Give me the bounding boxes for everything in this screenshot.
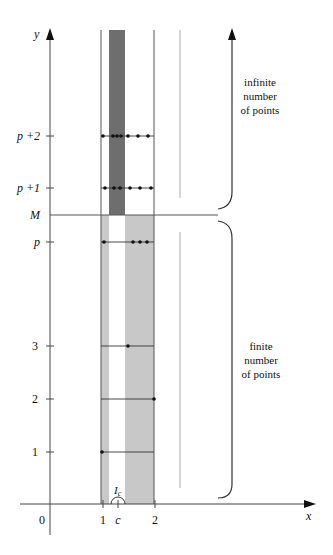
ytick-p1: p +1 (16, 181, 40, 195)
data-point (119, 134, 123, 138)
data-point (146, 134, 150, 138)
svg-text:of points: of points (242, 368, 281, 380)
upper-brace (218, 36, 232, 209)
ytick-p2: p +2 (16, 129, 40, 143)
data-point (136, 134, 140, 138)
dark-band (109, 30, 125, 215)
upper-annotation: infinite number of points (241, 76, 280, 116)
xtick-2: 2 (152, 513, 158, 527)
lower-brace (218, 221, 232, 498)
data-point (102, 240, 106, 244)
xtick-1: 1 (100, 513, 106, 527)
xtick-0: 0 (39, 513, 45, 527)
svg-text:infinite: infinite (244, 76, 276, 88)
data-point (131, 240, 135, 244)
light-band-left (101, 215, 109, 504)
ytick-2: 2 (32, 392, 38, 406)
data-point (138, 186, 142, 190)
data-point (101, 134, 105, 138)
data-point (145, 240, 149, 244)
y-axis-arrow-icon (46, 28, 54, 40)
data-point (115, 134, 119, 138)
y-axis-label: y (33, 27, 40, 41)
data-point (126, 344, 130, 348)
svg-text:number: number (244, 354, 278, 366)
light-band-right (125, 215, 154, 504)
data-point (128, 186, 132, 190)
ytick-3: 3 (32, 339, 38, 353)
data-point (112, 186, 116, 190)
interval-label: Ic (113, 484, 122, 498)
data-point (100, 450, 104, 454)
data-point (111, 134, 115, 138)
x-axis-label: x (305, 509, 312, 523)
upper-brace-arrow-icon (228, 28, 236, 40)
x-axis-arrow-icon (304, 500, 316, 508)
ytick-p: p (33, 235, 40, 249)
ytick-M: M (29, 208, 41, 222)
data-point (138, 240, 142, 244)
svg-text:finite: finite (249, 340, 272, 352)
data-point (126, 134, 130, 138)
xtick-c: c (115, 513, 121, 527)
data-point (103, 186, 107, 190)
lower-annotation: finite number of points (242, 340, 281, 380)
ytick-1: 1 (32, 445, 38, 459)
diagram-canvas: y x p +2 p +1 M p 3 2 1 0 1 c 2 Ic infin… (0, 0, 333, 555)
data-point (118, 186, 122, 190)
data-point (149, 186, 153, 190)
data-point (152, 397, 156, 401)
svg-text:number: number (243, 90, 277, 102)
svg-text:of points: of points (241, 104, 280, 116)
